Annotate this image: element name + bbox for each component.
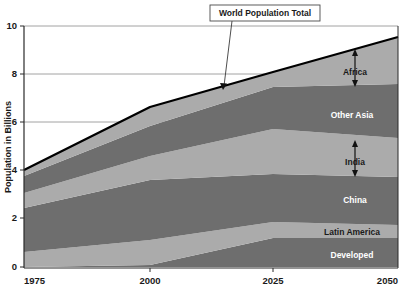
y-axis-title: Population in Billions (3, 101, 13, 193)
callout-label: World Population Total (219, 8, 311, 18)
y-tick-label-8: 8 (12, 68, 17, 79)
population-area-chart: 10 8 6 4 2 0 Population in Billions 1975… (0, 0, 413, 289)
band-label-china: China (343, 195, 367, 205)
y-tick-label-0: 0 (12, 261, 17, 272)
y-tick-label-2: 2 (12, 212, 17, 223)
x-tick-label-1975: 1975 (24, 275, 46, 286)
x-tick-label-2025: 2025 (262, 275, 284, 286)
x-tick-label-2000: 2000 (139, 275, 160, 286)
x-tick-label-2050: 2050 (377, 275, 398, 286)
band-label-developed: Developed (331, 250, 374, 260)
y-tick-label-10: 10 (6, 20, 17, 31)
band-label-other-asia: Other Asia (331, 110, 374, 120)
chart-canvas: 10 8 6 4 2 0 Population in Billions 1975… (0, 0, 413, 289)
band-label-latin-america: Latin America (324, 227, 380, 237)
